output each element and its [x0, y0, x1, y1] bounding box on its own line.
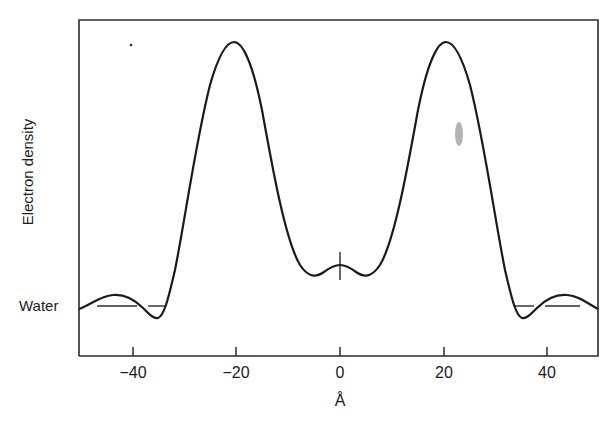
x-tick-label: 20: [435, 364, 453, 382]
x-tick-label: −40: [119, 364, 146, 382]
electron-density-curve: [79, 42, 598, 318]
speck-artifact: [130, 44, 133, 47]
x-tick-label: 0: [336, 364, 345, 382]
x-axis-ticks: [133, 347, 547, 356]
water-label: Water: [19, 297, 58, 314]
x-axis-label: Å: [335, 392, 346, 410]
smudge-artifact: [455, 122, 463, 146]
x-tick-label: −20: [222, 364, 249, 382]
x-tick-label: 40: [538, 364, 556, 382]
y-axis-label: Electron density: [19, 119, 36, 226]
chart-canvas: [0, 0, 613, 424]
